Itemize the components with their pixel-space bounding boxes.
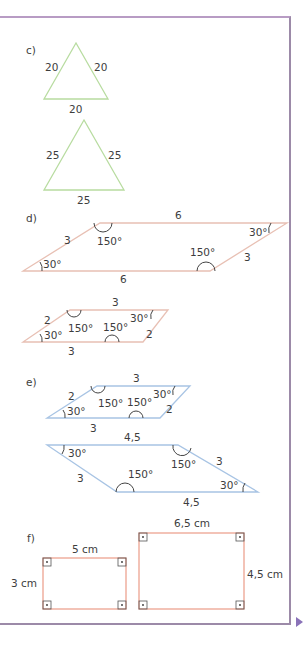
e-small-angle-bl: 30°: [67, 405, 86, 417]
section-f-label: f): [27, 532, 35, 544]
d-small-angle-tr: 30°: [130, 312, 149, 324]
d-large-angle-tr: 30°: [249, 226, 268, 238]
section-d-label: d): [26, 212, 37, 224]
e-small-angle-br: 150°: [127, 396, 152, 408]
e-large-angle-tl: 30°: [68, 447, 87, 459]
parallelogram-d-large: [23, 223, 287, 271]
tri1-left: 20: [45, 61, 58, 73]
e-large-right: 3: [216, 455, 223, 467]
d-large-angle-tl: 150°: [97, 235, 122, 247]
figures-canvas: c) 20 20 20 25 25 25 d) 6 6 3 3 30° 150°…: [0, 0, 307, 646]
d-large-bottom: 6: [120, 273, 127, 285]
d-small-top: 3: [112, 296, 119, 308]
e-large-angle-br: 30°: [220, 479, 239, 491]
tri2-left: 25: [46, 149, 59, 161]
e-large-top: 4,5: [124, 431, 141, 443]
e-small-right: 2: [166, 403, 173, 415]
tri1-right: 20: [94, 61, 107, 73]
e-large-left: 3: [77, 472, 84, 484]
e-small-bottom: 3: [90, 422, 97, 434]
rectangle-5x3: [43, 558, 126, 609]
d-small-angle-bl: 30°: [44, 329, 63, 341]
e-large-angle-bl: 150°: [128, 468, 153, 480]
next-page-arrow-icon[interactable]: [296, 617, 303, 627]
rect1-width: 5 cm: [72, 543, 98, 555]
d-large-top: 6: [175, 209, 182, 221]
tri2-bottom: 25: [77, 194, 90, 206]
rect1-height: 3 cm: [11, 577, 37, 589]
rect2-height: 4,5 cm: [247, 568, 283, 580]
tri1-bottom: 20: [69, 103, 82, 115]
rectangle-6.5x4.5: [139, 533, 244, 609]
e-small-angle-tl: 150°: [98, 397, 123, 409]
d-small-angle-br: 150°: [103, 321, 128, 333]
d-large-angle-br: 150°: [190, 246, 215, 258]
d-small-left: 2: [44, 314, 51, 326]
d-large-angle-bl: 30°: [43, 258, 62, 270]
d-small-right: 2: [146, 328, 153, 340]
e-large-angle-tr: 150°: [171, 458, 196, 470]
d-small-bottom: 3: [68, 345, 75, 357]
d-small-angle-tl: 150°: [68, 322, 93, 334]
e-large-bottom: 4,5: [183, 496, 200, 508]
tri2-right: 25: [108, 149, 121, 161]
d-large-left: 3: [64, 234, 71, 246]
e-small-top: 3: [133, 372, 140, 384]
e-small-left: 2: [68, 390, 75, 402]
section-e-label: e): [26, 376, 37, 388]
rect2-width: 6,5 cm: [174, 517, 210, 529]
d-large-right: 3: [244, 251, 251, 263]
e-small-angle-tr: 30°: [153, 388, 172, 400]
section-c-label: c): [26, 44, 36, 56]
